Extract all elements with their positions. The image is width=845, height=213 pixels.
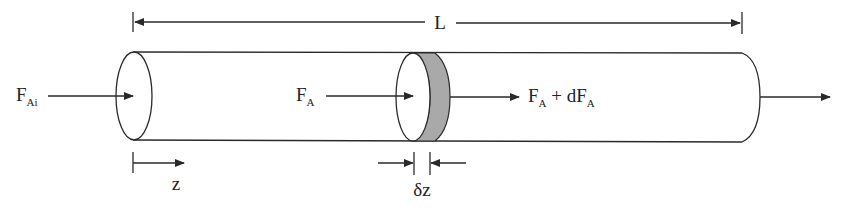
element-inlet-label: FA: [296, 84, 315, 108]
delta-z-label: δz: [413, 179, 430, 200]
diagram-svg: L FAi FA FA + dFA: [0, 0, 845, 213]
pfr-diagram: L FAi FA FA + dFA: [0, 0, 845, 213]
outlet-end-cap: [742, 53, 760, 142]
length-dimension: L: [133, 12, 742, 34]
tube-top-edge: [133, 52, 742, 53]
inlet-flow: FAi: [16, 84, 133, 108]
differential-element: [396, 53, 450, 141]
delta-z-dimension: δz: [378, 152, 466, 200]
element-outlet-flow: FA + dFA: [450, 85, 595, 109]
element-inlet-flow: FA: [296, 84, 413, 108]
tube-bottom-edge: [133, 140, 742, 142]
element-front-face: [396, 53, 430, 141]
length-label: L: [434, 12, 446, 33]
z-axis: z: [133, 152, 184, 194]
z-label: z: [172, 173, 180, 194]
inlet-flow-label: FAi: [16, 84, 38, 108]
element-outlet-label: FA + dFA: [528, 85, 595, 109]
